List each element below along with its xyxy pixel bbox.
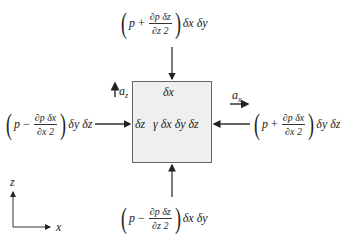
fraction: ∂p δx ∂x 2 — [34, 112, 58, 137]
open-paren: ( — [254, 109, 260, 139]
x-axis-label: x — [56, 221, 61, 233]
denominator: ∂x 2 — [37, 125, 54, 137]
pressure-symbol: p — [129, 16, 135, 31]
denominator: ∂z 2 — [152, 24, 168, 36]
az-subscript: z — [125, 91, 128, 100]
operator: − — [138, 211, 145, 226]
element-dx-label: δx — [163, 86, 174, 98]
fraction: ∂p δz ∂z 2 — [149, 11, 172, 36]
numerator: ∂p δz — [149, 11, 172, 24]
area-term: δx δy — [183, 211, 208, 226]
z-axis-label: z — [10, 176, 15, 188]
pressure-symbol: p — [129, 211, 135, 226]
bottom-force-expression: ( p − ∂p δz ∂z 2 ) δx δy — [119, 203, 208, 233]
weight-label: γ δx δy δz — [153, 118, 199, 130]
left-force-expression: ( p − ∂p δx ∂x 2 ) δy δz — [4, 109, 92, 139]
ax-label: ax — [232, 89, 242, 104]
close-paren: ) — [175, 8, 181, 38]
denominator: ∂z 2 — [152, 219, 168, 231]
top-force-expression: ( p + ∂p δz ∂z 2 ) δx δy — [119, 8, 208, 38]
open-paren: ( — [6, 109, 12, 139]
area-term: δy δz — [68, 117, 92, 132]
close-paren: ) — [175, 203, 181, 233]
pressure-symbol: p — [262, 117, 268, 132]
fraction: ∂p δz ∂z 2 — [149, 206, 172, 231]
pressure-symbol: p — [14, 117, 20, 132]
element-dz-label: δz — [135, 118, 145, 130]
close-paren: ) — [60, 109, 66, 139]
area-term: δy δz — [316, 117, 340, 132]
numerator: ∂p δx — [282, 112, 306, 125]
right-force-expression: ( p + ∂p δx ∂x 2 ) δy δz — [252, 109, 340, 139]
numerator: ∂p δx — [34, 112, 58, 125]
operator: + — [271, 117, 278, 132]
open-paren: ( — [121, 8, 127, 38]
close-paren: ) — [308, 109, 314, 139]
numerator: ∂p δz — [149, 206, 172, 219]
az-label: az — [119, 85, 128, 100]
operator: − — [23, 117, 30, 132]
open-paren: ( — [121, 203, 127, 233]
operator: + — [138, 16, 145, 31]
area-term: δx δy — [183, 16, 208, 31]
denominator: ∂x 2 — [285, 125, 302, 137]
ax-subscript: x — [238, 95, 242, 104]
fraction: ∂p δx ∂x 2 — [282, 112, 306, 137]
